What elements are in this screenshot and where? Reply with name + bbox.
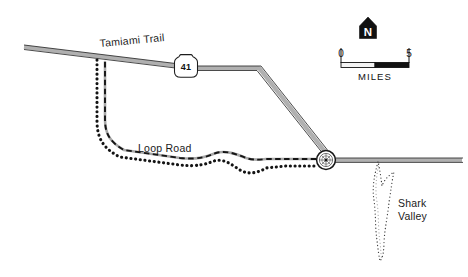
scale-bar-max-label: 5 [406, 48, 412, 59]
loop-road-label: Loop Road [138, 142, 192, 154]
north-arrow: N [360, 17, 377, 39]
shark-valley-trail [373, 162, 394, 261]
scale-bar-segment-dark [375, 63, 409, 68]
us-route-shield-number: 41 [181, 62, 191, 72]
shark-valley-label-line2: Valley [398, 210, 428, 222]
map-canvas: 41 Tamiami Trail Loop Road Shark Valley … [0, 0, 468, 277]
north-arrow-letter: N [364, 26, 372, 38]
scale-bar-min-label: 0 [338, 48, 344, 59]
tamiami-trail-label: Tamiami Trail [99, 31, 165, 49]
scale-bar-units-label: MILES [358, 71, 392, 82]
us-route-shield[interactable]: 41 [175, 55, 198, 78]
shark-valley-label-line1: Shark [398, 197, 427, 209]
visitor-center-marker[interactable] [317, 151, 336, 170]
loop-road [105, 62, 318, 160]
visitor-center-dot [325, 159, 328, 162]
loop-road-fill [105, 62, 318, 160]
scale-bar: 0 5 MILES [338, 48, 412, 82]
map-figure: 41 Tamiami Trail Loop Road Shark Valley … [0, 0, 468, 277]
scale-bar-segment-light [341, 63, 375, 68]
loop-road-centerline [105, 62, 318, 160]
